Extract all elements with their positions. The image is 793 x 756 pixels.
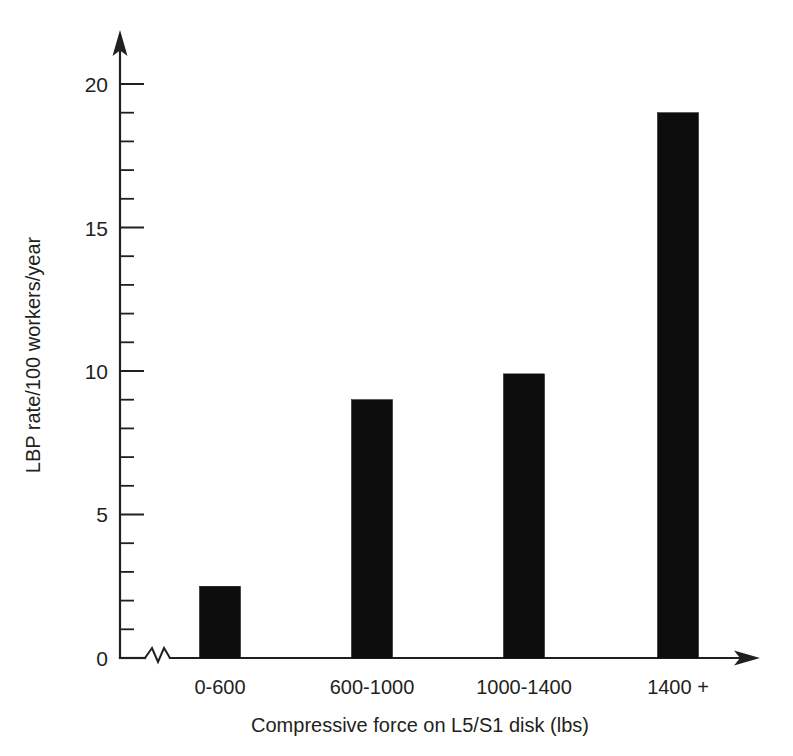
x-axis-break-icon [145,648,170,662]
y-axis-title: LBP rate/100 workers/year [22,236,44,473]
x-axis-title: Compressive force on L5/S1 disk (lbs) [251,714,589,736]
x-tick-label-0: 0-600 [194,676,245,698]
x-tick-label-3: 1400 + [647,676,709,698]
x-tick-label-2: 1000-1400 [476,676,572,698]
y-tick-label-15: 15 [85,217,108,240]
bars-group [200,113,699,658]
bar-1000-1400 [504,374,545,658]
y-tick-label-5: 5 [96,503,108,526]
y-tick-label-20: 20 [85,73,108,96]
x-tick-label-1: 600-1000 [330,676,415,698]
y-axis: 0 5 10 15 20 LBP rate/100 workers/year [22,30,144,670]
bar-chart: 0 5 10 15 20 LBP rate/100 workers/year 0… [0,0,793,756]
chart-canvas: 0 5 10 15 20 LBP rate/100 workers/year 0… [0,0,793,756]
bar-0-600 [200,586,241,658]
x-axis: 0-600 600-1000 1000-1400 1400 + Compress… [120,648,760,736]
y-tick-label-10: 10 [85,360,108,383]
y-tick-label-0: 0 [96,647,108,670]
bar-600-1000 [352,400,393,658]
bar-1400 [658,113,699,658]
